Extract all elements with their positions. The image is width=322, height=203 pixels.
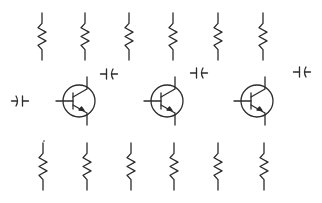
circuit-diagram — [0, 0, 322, 203]
emitter-arrow-icon — [79, 107, 84, 111]
resistor-icon-bottom-6 — [260, 143, 268, 190]
resistor-icon-bottom-3 — [127, 143, 135, 190]
emitter-arrow-icon — [167, 107, 172, 111]
resistor-icon-top-3 — [125, 13, 133, 60]
resistor-icon-top-5 — [214, 13, 222, 60]
npn-transistor-icon-3 — [234, 77, 273, 125]
capacitor-icon-4 — [294, 67, 311, 77]
resistor-icon-bottom-5 — [214, 143, 222, 190]
resistor-icon-bottom-2 — [83, 143, 91, 190]
capacitor-icon-2 — [101, 69, 118, 79]
resistor-icon-top-2 — [81, 13, 89, 60]
emitter-arrow-icon — [257, 107, 262, 111]
resistor-icon-top-4 — [169, 13, 177, 60]
stray-dot — [43, 140, 45, 142]
resistor-icon-bottom-1 — [39, 143, 47, 190]
npn-transistor-icon-1 — [56, 77, 95, 125]
capacitor-icon-1 — [12, 96, 29, 106]
resistor-icon-top-1 — [38, 13, 46, 60]
resistor-icon-top-6 — [259, 13, 267, 60]
capacitor-icon-3 — [191, 68, 208, 78]
circuit-svg — [0, 0, 322, 203]
resistor-icon-bottom-4 — [170, 143, 178, 190]
npn-transistor-icon-2 — [144, 77, 183, 125]
